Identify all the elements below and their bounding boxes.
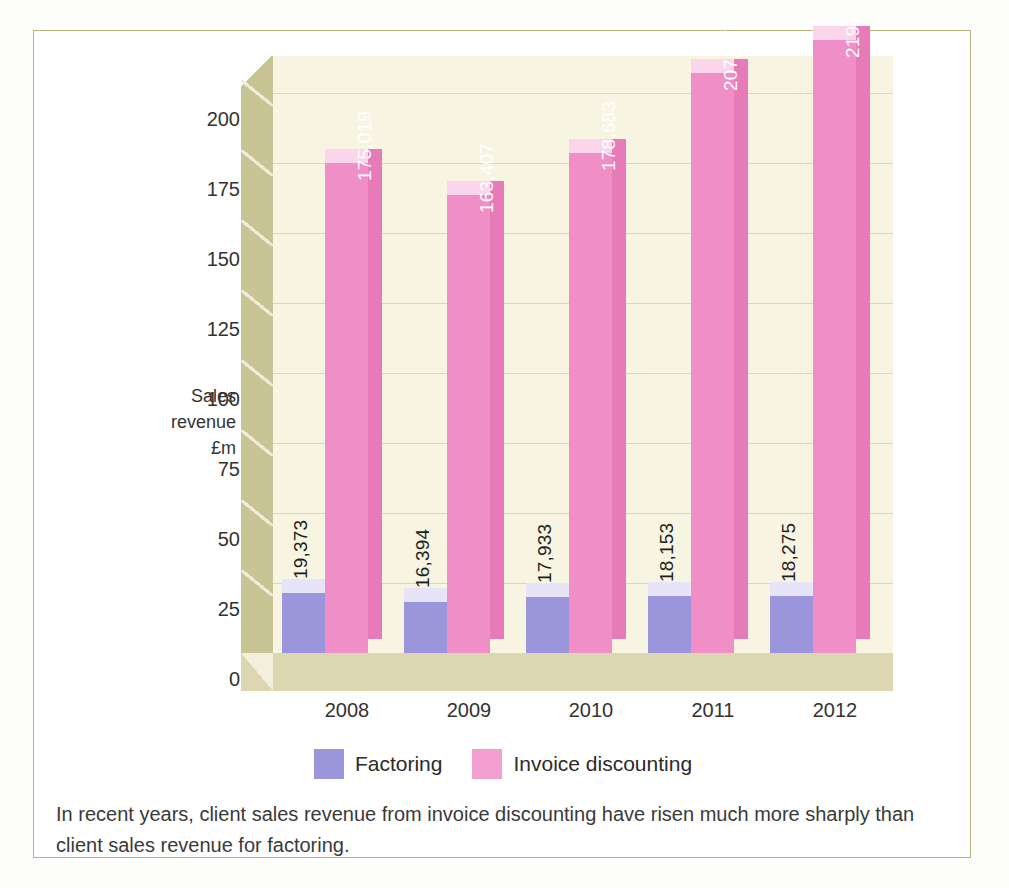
- y-axis-tick-label: 200: [184, 109, 240, 129]
- chart-plot-area: 0255075100125150175200 Sales revenue £m …: [34, 31, 972, 731]
- legend-label: Factoring: [355, 752, 443, 776]
- y-axis-ticks: 0255075100125150175200: [184, 31, 240, 731]
- bar-face: [404, 602, 447, 653]
- bar-invoice-discounting-2008[interactable]: [325, 149, 368, 653]
- bar-invoice-discounting-2011[interactable]: [691, 59, 734, 653]
- y-axis-tick-label: 75: [184, 459, 240, 479]
- bar-factoring-2008[interactable]: [282, 579, 325, 653]
- legend-item-factoring[interactable]: Factoring: [314, 749, 443, 779]
- y-axis-tick-label: 0: [184, 669, 240, 689]
- chart-caption: In recent years, client sales revenue fr…: [56, 799, 954, 861]
- chart-legend: FactoringInvoice discounting: [34, 749, 972, 779]
- bar-face: [526, 597, 569, 653]
- scanned-page: 0255075100125150175200 Sales revenue £m …: [0, 0, 1009, 888]
- bar-invoice-discounting-2010[interactable]: [569, 139, 612, 653]
- bar-side: [612, 139, 626, 639]
- bar-factoring-2009[interactable]: [404, 588, 447, 653]
- x-axis-label-2009: 2009: [404, 699, 534, 722]
- bar-top: [526, 583, 569, 597]
- legend-swatch: [472, 749, 502, 779]
- y-axis-tick-label: 175: [184, 179, 240, 199]
- y-axis-title-line-2: revenue: [126, 409, 236, 435]
- bar-face: [569, 153, 612, 653]
- bar-face: [447, 195, 490, 653]
- gridline: [273, 93, 893, 94]
- plot-side-wall: [241, 56, 273, 686]
- bar-side: [368, 149, 382, 639]
- bar-face: [691, 73, 734, 653]
- bar-top: [282, 579, 325, 593]
- bar-factoring-2010[interactable]: [526, 583, 569, 653]
- y-axis-title-line-3: £m: [126, 435, 236, 461]
- bar-top: [770, 582, 813, 596]
- bar-face: [282, 593, 325, 653]
- y-axis-tick-label: 50: [184, 529, 240, 549]
- y-axis-title-line-1: Sales: [126, 383, 236, 409]
- bar-face: [813, 40, 856, 653]
- y-axis-tick-label: 125: [184, 319, 240, 339]
- bar-invoice-discounting-2009[interactable]: [447, 181, 490, 653]
- bar-face: [770, 596, 813, 653]
- bar-factoring-2012[interactable]: [770, 582, 813, 653]
- legend-swatch: [314, 749, 344, 779]
- bar-side: [856, 26, 870, 639]
- bar-factoring-2011[interactable]: [648, 582, 691, 653]
- x-axis-label-2012: 2012: [770, 699, 900, 722]
- x-axis-label-2011: 2011: [648, 699, 778, 722]
- legend-item-invoice-discounting[interactable]: Invoice discounting: [472, 749, 692, 779]
- plot-floor-corner: [241, 653, 273, 691]
- y-axis-tick-label: 25: [184, 599, 240, 619]
- plot-side-wall-top: [241, 56, 273, 88]
- x-axis-label-2008: 2008: [282, 699, 412, 722]
- bar-face: [648, 596, 691, 653]
- bar-side: [490, 181, 504, 639]
- y-axis-title: Sales revenue £m: [126, 383, 236, 461]
- bar-invoice-discounting-2012[interactable]: [813, 26, 856, 653]
- bar-face: [325, 163, 368, 653]
- x-axis-label-2010: 2010: [526, 699, 656, 722]
- bar-top: [648, 582, 691, 596]
- chart-frame: 0255075100125150175200 Sales revenue £m …: [33, 30, 971, 858]
- y-axis-tick-label: 150: [184, 249, 240, 269]
- legend-label: Invoice discounting: [513, 752, 692, 776]
- plot-floor: [241, 653, 893, 691]
- bar-top: [404, 588, 447, 602]
- bar-side: [734, 59, 748, 639]
